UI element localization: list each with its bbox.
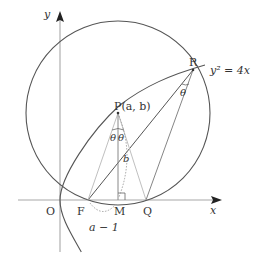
label-M: M (114, 205, 125, 218)
label-curve: y² = 4x (209, 64, 251, 77)
line-F-R (88, 70, 193, 200)
label-theta-R: θ (180, 87, 186, 98)
point-R (192, 69, 195, 72)
label-theta-left: θ (110, 132, 116, 143)
line-P-F (88, 113, 118, 200)
label-theta-right: θ (118, 132, 124, 143)
label-x-axis: x (210, 204, 217, 217)
label-a-minus-1: a − 1 (89, 221, 119, 234)
label-b: b (123, 153, 129, 164)
label-origin: O (46, 205, 55, 218)
label-R: R (189, 56, 198, 69)
label-Q: Q (143, 205, 152, 218)
parabola-circle-diagram: y x O F M Q P(a, b) R y² = 4x θ θ θ b a … (0, 0, 263, 268)
label-y-axis: y (43, 8, 51, 21)
label-P: P(a, b) (114, 100, 151, 113)
label-F: F (77, 205, 85, 218)
angle-arc-R (182, 84, 189, 85)
